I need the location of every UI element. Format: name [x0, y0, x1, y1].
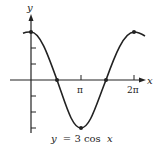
y-axis-label: y	[26, 2, 33, 13]
x-axis-arrow-icon	[139, 78, 146, 83]
chart-caption: y = 3 cos x	[50, 133, 113, 144]
y-axis-arrow-icon	[29, 14, 34, 21]
pi-tick-label: π	[77, 85, 83, 95]
cosine-chart: y x π 2π y = 3 cos x	[0, 0, 155, 146]
y-ticks	[31, 48, 36, 128]
caption-x: x	[107, 133, 113, 144]
x-axis-label: x	[147, 75, 153, 86]
caption-eq: = 3 cos	[63, 133, 101, 144]
two-pi-tick-label: 2π	[127, 85, 139, 95]
caption-y: y	[50, 133, 57, 144]
